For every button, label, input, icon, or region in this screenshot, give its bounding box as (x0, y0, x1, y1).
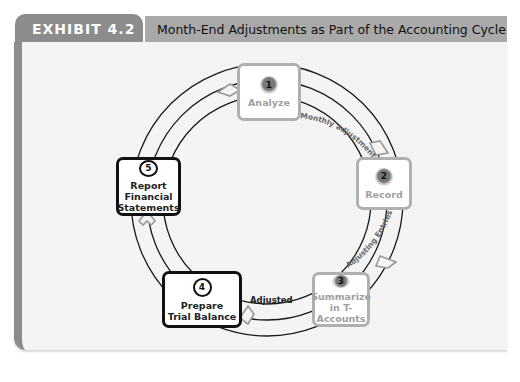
arrow-icon-to-summarize (376, 256, 396, 268)
step-label-line1: Report (130, 180, 166, 191)
arc-label-monthly-adjustments: Monthly adjustments (0, 0, 378, 160)
step-label-line2: Trial Balance (168, 311, 237, 322)
step-number-badge: 4 (193, 278, 212, 297)
step-number-badge: 2 (375, 168, 393, 186)
step-prepare-trial-balance: 4 Prepare Trial Balance (162, 271, 242, 328)
step-label: Record (365, 189, 402, 200)
step-label-line1: Summarize (311, 291, 371, 302)
step-summarize: 3 Summarize in T-Accounts (312, 272, 370, 327)
step-number-badge: 1 (260, 76, 278, 94)
arc-label-adjusted: Adjusted (250, 295, 293, 305)
step-record: 2 Record (356, 157, 412, 210)
step-analyze: 1 Analyze (237, 63, 301, 121)
arrow-icon-to-prepare (240, 306, 254, 324)
step-label-line1: Prepare (181, 300, 223, 311)
step-number-badge: 3 (332, 275, 350, 288)
step-number-badge: 5 (139, 160, 158, 177)
step-report-financial-statements: 5 Report Financial Statements (116, 157, 181, 216)
step-label-line2: Financial (124, 191, 172, 202)
step-label-line2: in T-Accounts (315, 302, 367, 324)
step-label: Analyze (248, 97, 290, 108)
step-label-line3: Statements (117, 202, 179, 213)
cycle-ring: Monthly adjustments Adjusting Entries Ad… (0, 0, 520, 382)
